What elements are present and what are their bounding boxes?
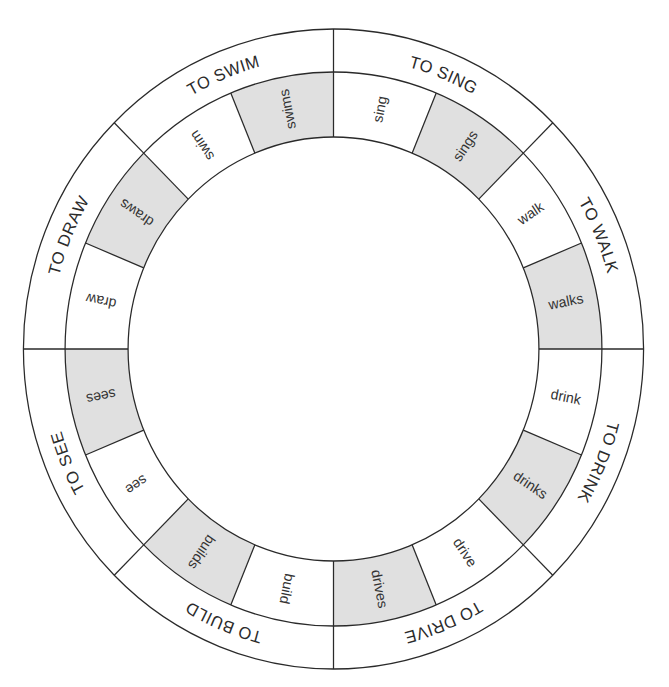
outer-divider [523,545,552,575]
inner-ring [128,137,539,561]
verb-conjugation-wheel: TO SINGTO WALKTO DRINKTO DRIVETO BUILDTO… [0,0,669,687]
dividers [23,29,643,669]
wheel-group: TO SINGTO WALKTO DRINKTO DRIVETO BUILDTO… [23,29,643,669]
outer-divider [114,545,143,575]
outer-divider [114,123,143,153]
outer-divider [523,123,552,153]
